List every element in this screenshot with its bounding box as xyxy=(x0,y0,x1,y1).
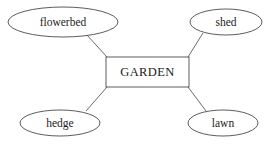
node-shed[interactable]: shed xyxy=(190,9,262,35)
connector-shed-garden xyxy=(188,33,203,57)
node-lawn-label: lawn xyxy=(212,117,235,129)
node-garden-label: GARDEN xyxy=(120,65,174,79)
garden-concept-diagram: GARDEN flowerbed shed hedge lawn xyxy=(0,0,270,144)
node-hedge[interactable]: hedge xyxy=(20,110,100,136)
node-flowerbed[interactable]: flowerbed xyxy=(8,7,118,37)
node-shed-label: shed xyxy=(215,16,236,28)
node-flowerbed-label: flowerbed xyxy=(40,16,87,28)
node-hedge-label: hedge xyxy=(46,117,73,130)
diagram-canvas: GARDEN flowerbed shed hedge lawn xyxy=(0,0,270,144)
connector-garden-lawn xyxy=(188,87,206,111)
node-garden[interactable]: GARDEN xyxy=(106,57,189,87)
node-lawn[interactable]: lawn xyxy=(188,110,258,136)
connector-garden-hedge xyxy=(86,87,107,111)
connector-flowerbed-garden xyxy=(86,34,107,57)
